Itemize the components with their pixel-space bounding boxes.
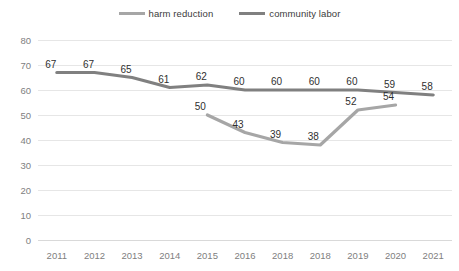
y-axis-ticks: 01020304050607080 [20,35,31,246]
x-tick-label: 2018 [310,250,331,261]
y-tick-label: 70 [20,60,31,71]
y-tick-label: 80 [20,35,31,46]
gridlines [38,41,452,241]
x-tick-label: 2016 [234,250,255,261]
x-tick-label: 2019 [347,250,368,261]
data-label: 39 [270,129,282,140]
x-axis-ticks: 2011201220132014201520162018201820192020… [47,250,444,261]
x-tick-label: 2014 [159,250,180,261]
data-label: 61 [158,74,170,85]
series-lines [57,73,433,146]
data-label: 38 [308,131,320,142]
data-label: 52 [345,96,357,107]
x-tick-label: 2021 [423,250,444,261]
series-line-community-labor [57,73,433,96]
y-tick-label: 20 [20,185,31,196]
data-label: 67 [45,59,57,70]
x-tick-label: 2020 [385,250,406,261]
y-tick-label: 60 [20,85,31,96]
y-tick-label: 50 [20,110,31,121]
data-label: 50 [195,101,207,112]
plot-area: 01020304050607080 2011201220132014201520… [0,0,459,271]
y-tick-label: 30 [20,160,31,171]
x-tick-label: 2013 [122,250,143,261]
data-label: 62 [196,71,208,82]
y-tick-label: 40 [20,135,31,146]
data-label: 67 [83,59,95,70]
data-label: 58 [422,81,434,92]
data-label: 59 [384,79,396,90]
data-label: 60 [233,76,245,87]
y-tick-label: 0 [26,235,31,246]
line-chart: harm reduction community labor 010203040… [0,0,459,271]
y-tick-label: 10 [20,210,31,221]
data-labels: 5043393852546767656162606060605958 [45,59,433,143]
data-label: 60 [309,76,321,87]
data-label: 60 [346,76,358,87]
data-label: 54 [383,91,395,102]
x-tick-label: 2012 [84,250,105,261]
data-label: 43 [232,119,244,130]
x-tick-label: 2018 [272,250,293,261]
x-tick-label: 2015 [197,250,218,261]
x-tick-label: 2011 [47,250,67,261]
data-label: 60 [271,76,283,87]
data-label: 65 [121,64,133,75]
